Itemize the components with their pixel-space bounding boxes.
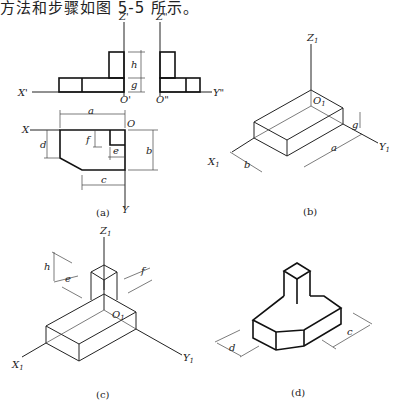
axis-x1-b: X1 bbox=[207, 156, 220, 169]
panel-b: Z1 O1 X1 Y1 b a g (b) bbox=[207, 32, 390, 217]
panel-c: Z1 O1 X1 Y1 h e f (c) bbox=[11, 225, 194, 400]
axonometric-diagram: Z' X' O' h g Z" Y" O" X O Y bbox=[0, 0, 399, 412]
origin-o1-c: O1 bbox=[112, 309, 125, 322]
dim-d: d bbox=[40, 139, 46, 150]
dim-a: a bbox=[88, 105, 94, 116]
axis-x-top: X bbox=[21, 124, 30, 135]
axis-x-prime: X' bbox=[17, 87, 28, 98]
axis-y1-b: Y1 bbox=[379, 141, 390, 154]
dim-f-c: f bbox=[140, 265, 147, 276]
axis-z-prime: Z' bbox=[118, 11, 129, 22]
origin-o-top: O bbox=[127, 118, 135, 129]
dim-b-b: b bbox=[244, 159, 250, 170]
dim-g: g bbox=[131, 79, 137, 90]
axis-z1-b: Z1 bbox=[306, 32, 318, 45]
dim-e-c: e bbox=[65, 273, 71, 284]
caption-d: (d) bbox=[291, 387, 305, 398]
caption-b: (b) bbox=[303, 206, 317, 217]
axis-y-double-prime: Y" bbox=[213, 87, 224, 98]
panel-a: Z' X' O' h g Z" Y" O" X O Y bbox=[17, 11, 224, 218]
dim-b: b bbox=[146, 145, 152, 156]
axis-y1-c: Y1 bbox=[183, 352, 194, 365]
dim-d-d: d bbox=[229, 342, 235, 353]
origin-o-double-prime: O" bbox=[156, 94, 169, 105]
dim-a-b: a bbox=[331, 142, 337, 153]
dim-f: f bbox=[85, 134, 92, 145]
axis-z-double-prime: Z" bbox=[155, 11, 168, 22]
dim-h-c: h bbox=[44, 261, 50, 272]
dim-c: c bbox=[101, 174, 107, 185]
origin-o-prime: O' bbox=[120, 94, 131, 105]
panel-d: d c (d) bbox=[215, 263, 372, 398]
caption-c: (c) bbox=[96, 389, 110, 400]
axis-x1-c: X1 bbox=[11, 359, 24, 372]
axis-y-bottom: Y bbox=[122, 204, 130, 215]
dim-c-d: c bbox=[347, 326, 353, 337]
caption-a: (a) bbox=[96, 207, 110, 218]
dim-h: h bbox=[131, 59, 137, 70]
dim-e: e bbox=[113, 145, 119, 156]
dim-g-b: g bbox=[352, 119, 358, 130]
axis-z1-c: Z1 bbox=[99, 225, 111, 238]
